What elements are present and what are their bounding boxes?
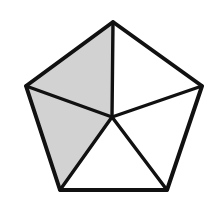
pentagon-diagram [0,0,217,207]
spoke-to-top [112,22,113,117]
figure-container [0,0,217,207]
